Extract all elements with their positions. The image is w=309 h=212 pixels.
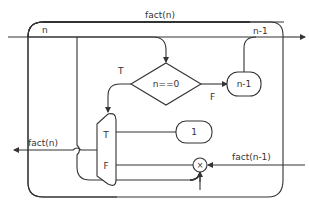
constant-label: 1: [191, 127, 197, 137]
recursive-out-label: n-1: [253, 26, 268, 36]
n-to-multiply: [77, 37, 200, 180]
mux-true-label: T: [102, 130, 109, 140]
outer-loop: [28, 22, 250, 37]
decrement-label: n-1: [237, 79, 252, 89]
mux-node: [97, 114, 116, 186]
true-branch-label: T: [117, 66, 124, 76]
outer-loop-label: fact(n): [145, 10, 175, 20]
decision-true-line: [108, 84, 131, 112]
n-to-decision: [28, 37, 166, 62]
mux-false-label: F: [103, 161, 108, 171]
multiply-symbol: ×: [197, 161, 204, 170]
decision-label: n==0: [153, 79, 180, 89]
decrement-out-line: [244, 37, 256, 72]
output-line: [14, 148, 97, 150]
input-n-label: n: [42, 25, 48, 35]
recursive-in-label: fact(n-1): [232, 152, 271, 162]
output-label: fact(n): [28, 138, 58, 148]
outer-loop-border: [28, 22, 250, 37]
factorial-diagram: n==0 T F n-1 n-1 fact(n) n T F 1 × fact(…: [0, 0, 309, 212]
false-branch-label: F: [210, 92, 215, 102]
